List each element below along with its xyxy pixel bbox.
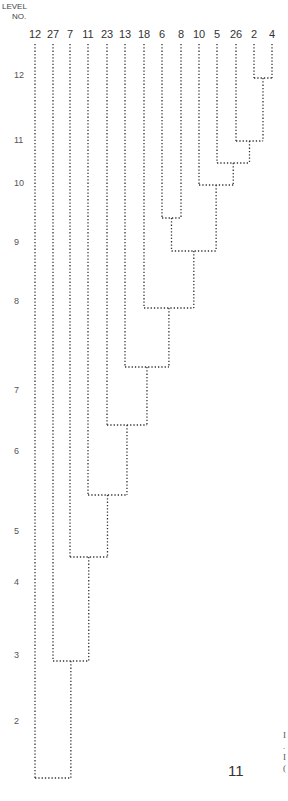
edge-text-line: I xyxy=(283,730,286,741)
dendrogram xyxy=(0,0,288,801)
cropped-edge-text: I.I( xyxy=(283,730,286,774)
edge-text-line: I xyxy=(283,752,286,763)
edge-text-line: . xyxy=(283,741,286,752)
edge-text-line: ( xyxy=(283,763,286,774)
page-number: 11 xyxy=(228,762,244,779)
